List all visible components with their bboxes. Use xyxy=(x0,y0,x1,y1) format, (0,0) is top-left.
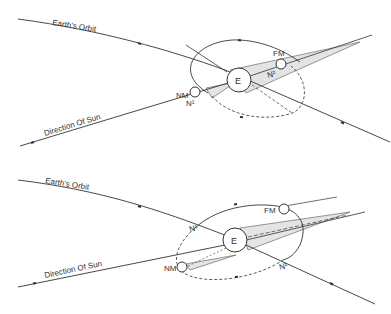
new-moon-label: NM xyxy=(164,264,177,273)
node1-label: N¹ xyxy=(186,99,195,108)
orbit-label: Earth's Orbit xyxy=(45,176,91,192)
earth-shadow-cone xyxy=(240,212,350,250)
sun-direction-line xyxy=(20,80,238,146)
earth-label: E xyxy=(235,76,241,86)
top-diagram: E FM N² NM N¹ Earth's Orbit Direction Of… xyxy=(18,18,390,146)
full-moon-label: FM xyxy=(273,49,285,58)
sun-direction-label: Direction Of Sun xyxy=(43,112,102,138)
new-moon xyxy=(190,87,200,97)
new-moon xyxy=(177,262,187,272)
sun-direction-label: Direction Of Sun xyxy=(44,259,103,280)
full-moon xyxy=(276,59,286,69)
moon-shadow-cone xyxy=(186,255,236,270)
earth-orbit-line xyxy=(18,180,375,304)
eclipse-diagram: E FM N² NM N¹ Earth's Orbit Direction Of… xyxy=(0,0,391,314)
full-moon-label: FM xyxy=(264,206,276,215)
node2-label: N² xyxy=(278,261,289,272)
orbit-label: Earth's Orbit xyxy=(52,18,98,34)
earth-label: E xyxy=(231,236,237,246)
full-moon xyxy=(279,204,289,214)
bottom-diagram: E FM NM N¹ N² Earth's Orbit Direction Of… xyxy=(18,176,375,304)
